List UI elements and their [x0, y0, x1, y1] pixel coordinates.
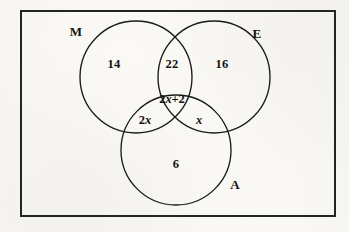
set-label-e: E	[253, 27, 262, 40]
variable-x: x	[145, 113, 151, 127]
region-label-m-e-a: 2x+2	[159, 93, 185, 106]
region-label-m-a: 2x	[139, 114, 151, 127]
variable-x: x	[196, 113, 202, 127]
region-label-m-only: 14	[108, 58, 121, 71]
region-label-e-only: 16	[216, 58, 229, 71]
venn-diagram-canvas	[0, 0, 349, 232]
set-label-m: M	[70, 25, 83, 38]
constant-term: +2	[172, 92, 185, 106]
region-label-m-e: 22	[166, 58, 179, 71]
set-label-a: A	[230, 178, 240, 191]
set-circle-a	[121, 95, 231, 205]
set-circle-m	[80, 21, 192, 133]
region-label-e-a: x	[196, 114, 202, 127]
region-label-a-only: 6	[173, 158, 179, 171]
venn-diagram-figure: M E A 14 22 16 2x+2 2x x 6	[0, 0, 349, 232]
